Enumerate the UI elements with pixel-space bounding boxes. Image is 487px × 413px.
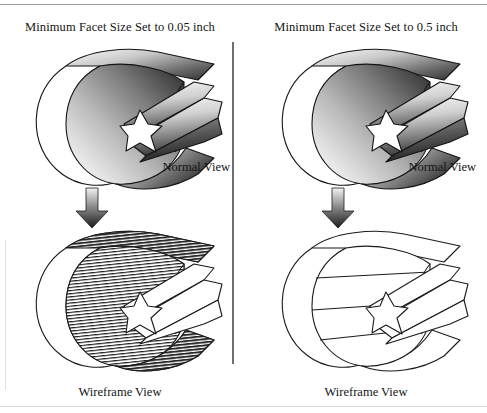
panel-left-wireframe-label: Wireframe View xyxy=(4,385,236,400)
panel-left-title: Minimum Facet Size Set to 0.05 inch xyxy=(4,20,236,35)
panel-right-wireframe-view xyxy=(254,228,482,380)
down-arrow-icon xyxy=(316,186,360,230)
wireframe-model-left xyxy=(8,228,236,380)
figure-root: Minimum Facet Size Set to 0.05 inch xyxy=(0,0,487,413)
panel-left: Minimum Facet Size Set to 0.05 inch xyxy=(4,0,236,413)
panel-left-normal-label: Normal View xyxy=(163,160,230,175)
panel-right-title: Minimum Facet Size Set to 0.5 inch xyxy=(250,20,482,35)
panel-right: Minimum Facet Size Set to 0.5 inch xyxy=(250,0,482,413)
panel-left-arrow-slot xyxy=(70,186,114,230)
wireframe-model-right xyxy=(254,228,482,380)
down-arrow-icon xyxy=(70,186,114,230)
panel-right-normal-label: Normal View xyxy=(409,160,476,175)
panel-right-arrow-slot xyxy=(316,186,360,230)
panel-right-wireframe-label: Wireframe View xyxy=(250,385,482,400)
panel-left-wireframe-view xyxy=(8,228,236,380)
